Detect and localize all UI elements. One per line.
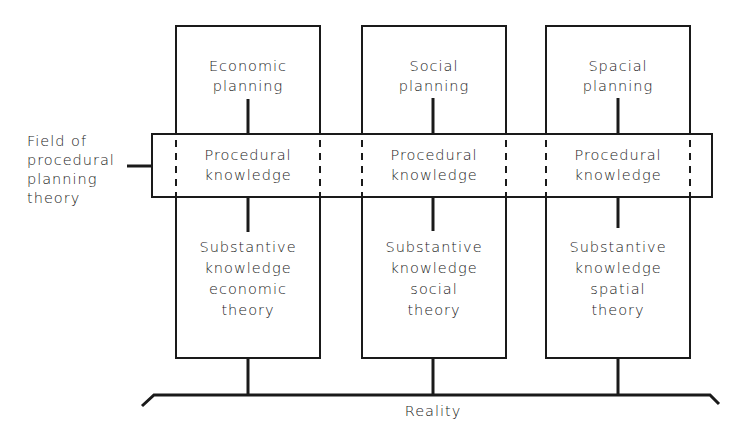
planning-label-spatial: Spacial planning [546, 56, 690, 96]
reality-label: Reality [383, 401, 483, 421]
procedural-label-spatial: Procedural knowledge [546, 145, 690, 185]
planning-label-economic: Economic planning [176, 56, 320, 96]
side-label: Field of procedural planning theory [27, 132, 127, 208]
substantive-label-economic: Substantive knowledge economic theory [176, 237, 320, 321]
planning-label-social: Social planning [362, 56, 506, 96]
procedural-label-economic: Procedural knowledge [176, 145, 320, 185]
procedural-label-social: Procedural knowledge [362, 145, 506, 185]
substantive-label-spatial: Substantive knowledge spatial theory [546, 237, 690, 321]
substantive-label-social: Substantive knowledge social theory [362, 237, 506, 321]
